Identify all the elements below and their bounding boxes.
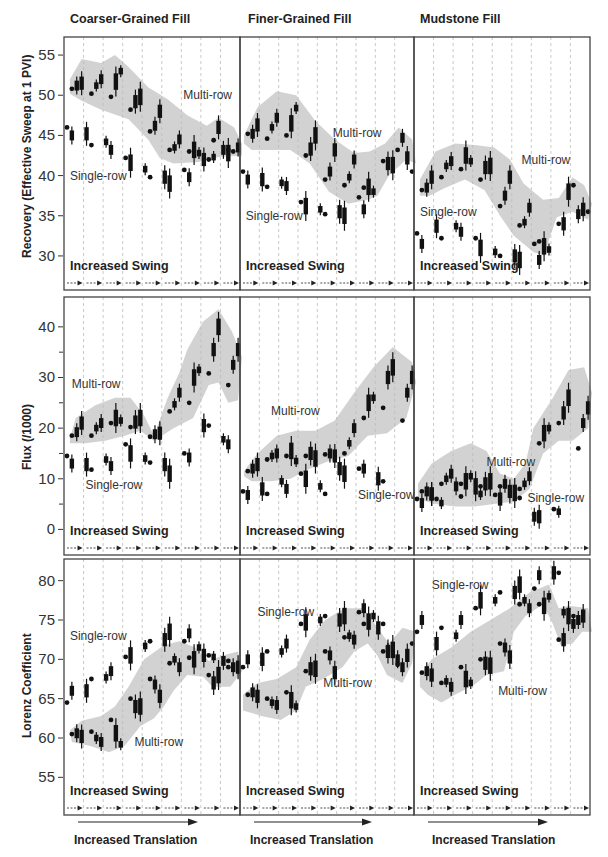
single-row-box [454, 223, 458, 230]
multi-row-box [542, 425, 546, 442]
multi-row-box [547, 593, 551, 600]
multi-row-box [328, 167, 332, 177]
single-row-point [89, 143, 94, 148]
multi-row-point [148, 677, 153, 682]
multi-row-box [429, 668, 433, 681]
swing-arrow-head [117, 281, 122, 286]
swing-arrow-head [506, 546, 511, 551]
single-row-box [221, 145, 225, 155]
multi-row-box [483, 657, 487, 670]
multi-row-box [255, 118, 259, 131]
multi-row-box [333, 449, 337, 462]
multi-row-box [94, 425, 98, 432]
multi-row-box [133, 95, 137, 108]
y-tick-label: 55 [38, 46, 55, 63]
multi-row-box [391, 642, 395, 659]
multi-row-point [69, 732, 74, 737]
multi-row-point [478, 657, 483, 662]
multi-row-box [366, 395, 370, 412]
swing-arrow-head [97, 281, 102, 286]
swing-arrow-head [331, 546, 336, 551]
swing-arrow-head [506, 806, 511, 811]
multi-row-box [542, 598, 546, 615]
multi-row-box [386, 645, 390, 658]
plot-grid: 303540455055Multi-rowSingle-rowIncreased… [0, 0, 608, 857]
y-tick-label: 20 [38, 419, 55, 436]
multi-row-box [566, 183, 570, 200]
swing-arrow-head [545, 806, 550, 811]
single-row-point [299, 471, 304, 476]
multi-row-point [576, 446, 581, 451]
y-tick-label: 80 [38, 572, 55, 589]
increased-swing-label: Increased Swing [420, 784, 519, 798]
single-row-point [65, 125, 70, 130]
single-row-box [104, 139, 108, 146]
single-row-box [304, 198, 308, 215]
swing-arrow-head [486, 281, 491, 286]
multi-row-box [94, 735, 98, 742]
y-tick-label: 10 [38, 470, 55, 487]
swing-arrow-head [584, 806, 589, 811]
multi-row-box [158, 105, 162, 118]
single-row-box [537, 255, 541, 265]
single-row-box [167, 465, 171, 482]
multi-row-box [405, 151, 409, 164]
multi-row-box [386, 157, 390, 170]
single-row-label: Single-row [70, 629, 127, 643]
single-row-point [551, 507, 556, 512]
increased-swing-label: Increased Swing [246, 784, 345, 798]
single-row-point [123, 156, 128, 161]
multi-row-point [361, 185, 366, 190]
swing-arrow-head [486, 546, 491, 551]
single-row-point [323, 614, 328, 619]
single-row-box [163, 633, 167, 646]
single-row-box [109, 666, 113, 676]
multi-row-point [265, 457, 270, 462]
swing-arrow-head [428, 806, 433, 811]
single-row-box [517, 576, 521, 593]
increased-swing-label: Increased Swing [246, 524, 345, 538]
single-row-box [260, 653, 264, 666]
multi-row-box [527, 603, 531, 613]
swing-arrow-head [311, 806, 316, 811]
multi-row-box [211, 343, 215, 356]
single-row-box [342, 608, 346, 625]
multi-row-point [231, 149, 236, 154]
single-row-box [284, 484, 288, 494]
swing-arrow-head [331, 281, 336, 286]
multi-row-point [537, 441, 542, 446]
single-row-point [299, 622, 304, 627]
single-row-box [163, 458, 167, 471]
single-row-point [415, 231, 420, 236]
single-row-box [537, 510, 541, 523]
single-row-box [284, 639, 288, 649]
swing-arrow-head [369, 806, 374, 811]
single-row-box [143, 455, 147, 462]
single-row-point [65, 700, 70, 705]
single-row-point [498, 590, 503, 595]
multi-row-label: Multi-row [271, 404, 320, 418]
multi-row-point [265, 136, 270, 141]
multi-row-point [323, 177, 328, 182]
single-row-box [70, 686, 74, 696]
multi-row-point [226, 665, 231, 670]
single-row-box [84, 458, 88, 471]
multi-row-point [303, 669, 308, 674]
y-tick-label: 45 [38, 126, 55, 143]
multi-row-point [265, 696, 270, 701]
multi-row-box [464, 473, 468, 490]
multi-row-box [328, 650, 332, 660]
multi-row-box [508, 171, 512, 184]
swing-arrow-head [136, 806, 141, 811]
multi-row-box [250, 129, 254, 139]
swing-arrow-head [97, 806, 102, 811]
swing-arrow-head [564, 806, 569, 811]
panel-2-0: Multi-rowSingle-rowIncreased Swing [64, 559, 242, 815]
multi-row-box [566, 389, 570, 406]
swing-arrow-head [331, 806, 336, 811]
swing-arrow-head [447, 281, 452, 286]
swing-arrow-head [136, 281, 141, 286]
increased-swing-label: Increased Swing [70, 524, 169, 538]
multi-row-point [419, 188, 424, 193]
y-tick-label: 55 [38, 768, 55, 785]
